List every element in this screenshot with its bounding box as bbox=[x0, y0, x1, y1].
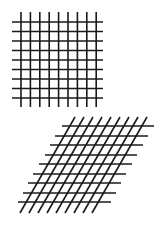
sheared-grid bbox=[18, 117, 154, 213]
sheared-slanted-line bbox=[20, 117, 75, 213]
sheared-slanted-line bbox=[65, 117, 120, 213]
sheared-slanted-line bbox=[29, 117, 84, 213]
sheared-slanted-line bbox=[74, 117, 129, 213]
sheared-slanted-line bbox=[47, 117, 102, 213]
sheared-slanted-line bbox=[56, 117, 111, 213]
sheared-slanted-line bbox=[83, 117, 138, 213]
sheared-slanted-line bbox=[92, 117, 147, 213]
grid-diagram bbox=[0, 0, 166, 225]
sheared-slanted-line bbox=[38, 117, 93, 213]
square-grid bbox=[12, 12, 103, 107]
